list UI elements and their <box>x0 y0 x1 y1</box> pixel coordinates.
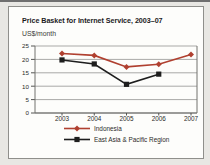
svg-text:10: 10 <box>22 83 29 90</box>
legend-label-indonesia: Indonesia <box>94 124 122 133</box>
indonesia-line-marker-icon <box>64 124 90 133</box>
svg-text:2004: 2004 <box>87 115 102 122</box>
svg-text:2005: 2005 <box>119 115 134 122</box>
svg-text:15: 15 <box>22 69 29 76</box>
figure-box: Price Basket for Internet Service, 2003–… <box>8 6 204 159</box>
chart-legend: Indonesia East Asia & Pacific Region <box>64 124 169 144</box>
svg-text:0: 0 <box>26 109 30 116</box>
legend-item-indonesia: Indonesia <box>64 124 169 133</box>
svg-text:20: 20 <box>22 56 29 63</box>
svg-text:2006: 2006 <box>152 115 167 122</box>
svg-text:2003: 2003 <box>55 115 70 122</box>
legend-label-east-asia-pacific: East Asia & Pacific Region <box>94 135 169 144</box>
line-chart: 051015202520032004200520062007 <box>9 42 201 126</box>
svg-text:2007: 2007 <box>184 115 199 122</box>
svg-text:5: 5 <box>26 96 30 103</box>
chart-unit-label: US$/month <box>22 30 56 38</box>
page-top-rule <box>0 0 210 2</box>
chart-title: Price Basket for Internet Service, 2003–… <box>22 16 198 25</box>
east-asia-pacific-line-marker-icon <box>64 135 90 144</box>
legend-item-east-asia-pacific: East Asia & Pacific Region <box>64 135 169 144</box>
svg-text:25: 25 <box>22 42 29 49</box>
